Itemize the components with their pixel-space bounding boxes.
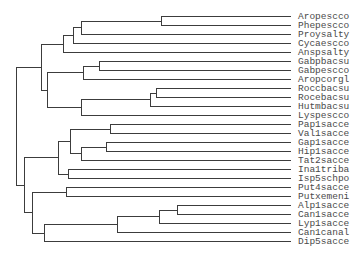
dendrogram: AropesccoPhepesccoProysaltyCycaesccoAnsp… <box>0 0 355 261</box>
leaf-label: Dip5sacce <box>298 236 350 247</box>
leaf-label-group: AropesccoPhepesccoProysaltyCycaesccoAnsp… <box>298 11 350 247</box>
branch-group <box>16 17 291 242</box>
